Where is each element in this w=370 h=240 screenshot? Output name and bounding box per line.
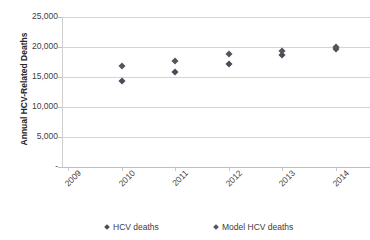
- legend-label: HCV deaths: [113, 222, 159, 232]
- data-point-marker: [118, 63, 125, 70]
- y-tick-mark: [58, 17, 62, 18]
- y-axis-line: [62, 17, 63, 168]
- data-point-marker: [118, 78, 125, 85]
- gridline: [62, 17, 370, 18]
- y-tick-mark: [58, 107, 62, 108]
- gridline: [62, 107, 370, 108]
- x-tick-label: 2013: [277, 168, 297, 188]
- legend-item[interactable]: HCV deaths: [105, 222, 159, 232]
- x-axis-tick-labels: 200920102011201220132014: [0, 168, 370, 208]
- y-tick-mark: [58, 137, 62, 138]
- x-tick-label: 2012: [223, 168, 243, 188]
- chart-legend: HCV deathsModel HCV deaths: [0, 222, 370, 238]
- gridline: [62, 77, 370, 78]
- x-tick-label: 2014: [331, 168, 351, 188]
- y-tick-label: 10,000: [12, 101, 58, 111]
- plot-area: [62, 17, 370, 167]
- x-tick-label: 2009: [63, 168, 83, 188]
- scatter-chart: Annual HCV-Related Deaths 25,00020,00015…: [0, 0, 370, 240]
- gridline: [62, 47, 370, 48]
- x-tick-label: 2011: [170, 168, 190, 188]
- legend-marker-icon: [104, 224, 110, 230]
- legend-item[interactable]: Model HCV deaths: [214, 222, 293, 232]
- data-point-marker: [172, 58, 179, 65]
- y-tick-label: 5,000: [12, 131, 58, 141]
- legend-label: Model HCV deaths: [222, 222, 293, 232]
- y-tick-label: 20,000: [12, 41, 58, 51]
- y-tick-mark: [58, 77, 62, 78]
- y-tick-label: 15,000: [12, 71, 58, 81]
- data-point-marker: [225, 51, 232, 58]
- y-tick-label: 25,000: [12, 11, 58, 21]
- gridline: [62, 137, 370, 138]
- y-tick-mark: [58, 47, 62, 48]
- legend-marker-icon: [213, 224, 219, 230]
- data-point-marker: [225, 60, 232, 67]
- data-point-marker: [172, 69, 179, 76]
- x-tick-label: 2010: [116, 168, 136, 188]
